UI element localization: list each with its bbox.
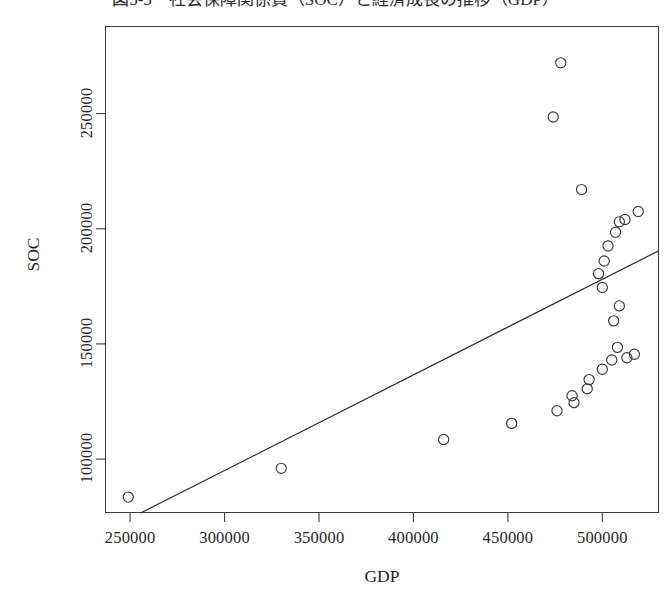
chart-figure: 図5-5 社会保障関係費（SOC）と経済成長の推移（GDP） SOC GDP 2… [0, 0, 671, 605]
x-tick-label: 300000 [175, 528, 275, 548]
y-tick-label: 200000 [77, 178, 97, 278]
x-tick-label: 450000 [458, 528, 558, 548]
x-tick-label: 350000 [269, 528, 369, 548]
chart-title: 図5-5 社会保障関係費（SOC）と経済成長の推移（GDP） [0, 0, 671, 11]
y-axis-label: SOC [23, 215, 44, 295]
x-axis-label: GDP [105, 566, 659, 587]
y-tick-label: 150000 [77, 293, 97, 393]
plot-area [105, 26, 659, 513]
x-tick-label: 500000 [552, 528, 652, 548]
y-tick-label: 100000 [77, 408, 97, 508]
x-tick-label: 250000 [80, 528, 180, 548]
y-tick-label: 250000 [77, 63, 97, 163]
x-tick-label: 400000 [363, 528, 463, 548]
